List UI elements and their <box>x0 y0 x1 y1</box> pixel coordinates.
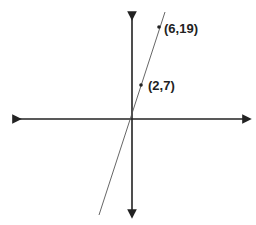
point-2-7 <box>139 83 143 87</box>
point-label-2-7: (2,7) <box>148 78 175 93</box>
point-6-19 <box>157 25 161 29</box>
coordinate-plane: (2,7) (6,19) <box>0 0 256 225</box>
point-label-6-19: (6,19) <box>164 21 198 36</box>
